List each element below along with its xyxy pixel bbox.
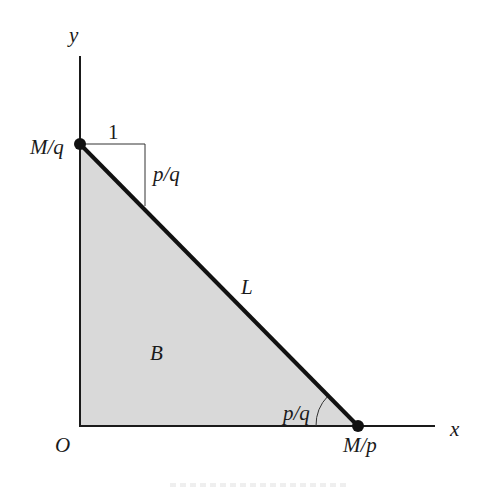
y-intercept-label: M/q — [29, 135, 64, 159]
slope-rise-label: p/q — [151, 162, 180, 186]
y-axis-label: y — [67, 23, 79, 47]
slope-run-label: 1 — [108, 120, 119, 144]
y-intercept-point — [74, 138, 86, 150]
x-intercept-point — [352, 420, 364, 432]
budget-line-label: L — [240, 275, 253, 299]
x-axis-label: x — [449, 417, 460, 441]
origin-label: O — [55, 433, 70, 457]
budget-diagram: y x O M/q M/p 1 p/q L B p/q — [0, 0, 490, 487]
angle-label: p/q — [281, 401, 310, 425]
x-intercept-label: M/p — [342, 433, 377, 457]
caption-truncated — [170, 483, 350, 487]
budget-set-label: B — [150, 341, 163, 365]
